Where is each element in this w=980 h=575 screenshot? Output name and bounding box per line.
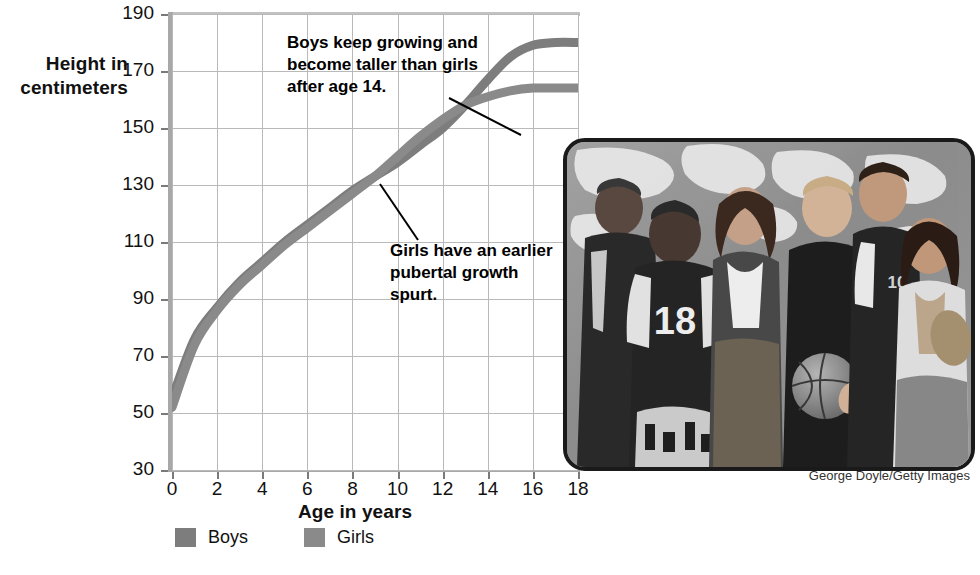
y-tick-label: 170 [108, 59, 154, 81]
gridline-horizontal [172, 470, 578, 471]
x-tick-mark [488, 472, 490, 479]
x-tick-mark [307, 472, 309, 479]
y-tick-label: 50 [108, 401, 154, 423]
y-tick-label: 30 [108, 458, 154, 480]
legend-swatch-boys [175, 528, 196, 547]
x-tick-mark [217, 472, 219, 479]
x-tick-label: 4 [247, 478, 277, 500]
y-tick-label: 90 [108, 287, 154, 309]
x-tick-label: 14 [473, 478, 503, 500]
x-tick-mark [262, 472, 264, 479]
legend-swatch-girls [304, 528, 325, 547]
annotation-boys: Boys keep growing and become taller than… [287, 32, 497, 97]
leader-line-boys [447, 95, 527, 140]
y-tick-label: 190 [108, 2, 154, 24]
y-tick-label: 130 [108, 173, 154, 195]
x-tick-label: 10 [383, 478, 413, 500]
y-tick-label: 110 [108, 230, 154, 252]
teens-photo: 18 [563, 138, 975, 471]
legend-label: Boys [208, 527, 248, 548]
x-tick-label: 16 [518, 478, 548, 500]
x-tick-label: 2 [202, 478, 232, 500]
x-tick-mark [578, 472, 580, 479]
x-tick-mark [443, 472, 445, 479]
y-tick-mark [161, 14, 168, 16]
y-tick-mark [161, 242, 168, 244]
legend-item-girls[interactable]: Girls [304, 527, 374, 548]
x-tick-mark [533, 472, 535, 479]
chart-legend: BoysGirls [175, 527, 416, 548]
leader-line-girls [378, 182, 424, 244]
x-tick-label: 18 [563, 478, 593, 500]
annotation-girls: Girls have an earlier pubertal growth sp… [390, 240, 560, 305]
y-tick-label: 150 [108, 116, 154, 138]
y-tick-mark [161, 71, 168, 73]
legend-label: Girls [337, 527, 374, 548]
y-tick-mark [161, 299, 168, 301]
photo-credit: George Doyle/Getty Images [735, 468, 970, 483]
x-tick-label: 0 [157, 478, 187, 500]
x-tick-mark [352, 472, 354, 479]
x-axis-title: Age in years [265, 500, 445, 524]
x-tick-mark [172, 472, 174, 479]
y-tick-mark [161, 356, 168, 358]
x-tick-label: 12 [428, 478, 458, 500]
legend-item-boys[interactable]: Boys [175, 527, 248, 548]
x-tick-label: 6 [292, 478, 322, 500]
y-tick-mark [161, 413, 168, 415]
y-tick-label: 70 [108, 344, 154, 366]
y-tick-mark [161, 128, 168, 130]
x-tick-label: 8 [337, 478, 367, 500]
y-tick-mark [161, 470, 168, 472]
x-tick-mark [398, 472, 400, 479]
y-tick-mark [161, 185, 168, 187]
